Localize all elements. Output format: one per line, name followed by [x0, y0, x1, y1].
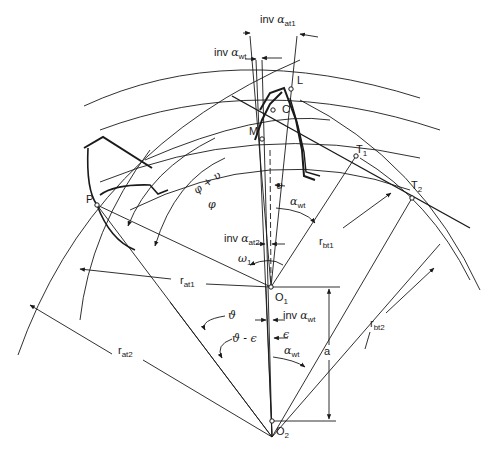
label-theta-minus-epsilon: ϑ - ϵ [232, 333, 257, 344]
arc-alpha-wt-upper [276, 208, 315, 223]
rbt1-leader [343, 193, 391, 228]
center-line-4 [271, 36, 297, 287]
line-O2-left [170, 302, 272, 437]
gear-geometry-diagram: P M C L T1 T2 O1 O2 inv αat1 inv αwt φ +… [0, 0, 496, 452]
label-phi: φ [208, 199, 216, 210]
label-alpha-wt-lower: αwt [284, 345, 299, 356]
arc-theta [204, 316, 225, 330]
label-epsilon: ϵ [283, 329, 289, 340]
tooth-gear2-flank [88, 148, 135, 250]
arc-alpha-wt-lower [273, 357, 305, 367]
label-point-T1: T1 [356, 144, 367, 155]
label-r-at1: rat1 [180, 275, 195, 286]
label-point-P: P [86, 194, 93, 205]
point-L-marker [289, 87, 293, 91]
rbt2-leader-a [386, 268, 434, 313]
center-line-5 [270, 150, 271, 287]
label-center-distance-a: a [324, 346, 330, 357]
label-r-bt1: rbt1 [319, 236, 334, 247]
base-circle-large [300, 100, 480, 290]
point-P-marker [95, 203, 99, 207]
rat1-leader [80, 269, 171, 279]
label-point-O2: O2 [276, 426, 289, 437]
label-omega1: ω1 [238, 253, 251, 264]
label-inv-alpha-at1: inv αat1 [260, 14, 296, 25]
label-inv-alpha-wt-lower: inv αwt [283, 310, 316, 321]
point-M-marker [260, 137, 264, 141]
label-point-M: M [249, 126, 258, 137]
label-r-at2: rat2 [118, 345, 133, 356]
line-O2-at2 [143, 360, 272, 437]
label-point-O1: O1 [275, 292, 288, 303]
label-point-T2: T2 [411, 180, 422, 191]
point-C-marker [271, 108, 275, 112]
arc-theta-eps [220, 339, 232, 358]
line-of-action [232, 96, 470, 228]
point-O1-marker [269, 285, 273, 289]
label-point-L: L [297, 75, 303, 86]
label-nu: υ [276, 180, 283, 191]
label-inv-alpha-wt-top: inv αwt [214, 47, 247, 58]
tooth-gear2-root [100, 185, 168, 195]
diagram-linework [0, 0, 496, 452]
rat2-dim [30, 305, 112, 354]
point-O2-marker [270, 419, 274, 423]
label-point-C: C [282, 104, 290, 115]
label-r-bt2: rbt2 [370, 318, 385, 329]
point-T2-marker [410, 196, 414, 200]
arc-omega1 [250, 261, 283, 266]
label-alpha-wt-upper: αwt [290, 196, 305, 207]
line-O2-rbt2 [272, 244, 440, 437]
label-theta: ϑ [228, 310, 236, 321]
label-inv-alpha-at2: inv αat2 [224, 233, 260, 244]
tooth-gear2 [84, 137, 152, 168]
